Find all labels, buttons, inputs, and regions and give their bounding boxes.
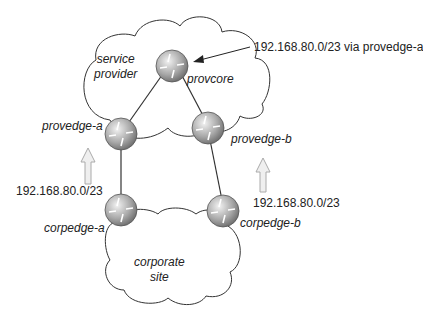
up-arrow-left	[81, 148, 95, 184]
router-icon-corpedge-b[interactable]	[207, 195, 239, 227]
router-label-provcore: provcore	[187, 72, 234, 86]
router-icon-provedge-a[interactable]	[105, 118, 137, 150]
router-icon-corpedge-a[interactable]	[105, 194, 137, 226]
router-label-provedge-a: provedge-a	[42, 119, 103, 133]
route-advert-right: 192.168.80.0/23	[253, 196, 340, 210]
router-label-provedge-b: provedge-b	[231, 132, 292, 146]
router-icon-provedge-b[interactable]	[192, 112, 224, 144]
service-provider-label-line1: service	[94, 52, 137, 67]
corporate-site-label-line1: corporate	[134, 255, 185, 270]
route-advert-left: 192.168.80.0/23	[16, 184, 103, 198]
router-label-corpedge-b: corpedge-b	[240, 216, 301, 230]
up-arrow-right	[256, 158, 270, 192]
router-label-corpedge-a: corpedge-a	[44, 221, 105, 235]
link-provedge-b-corpedge-b	[210, 140, 222, 200]
corporate-site-label: corporate site	[134, 255, 185, 285]
service-provider-label-line2: provider	[94, 67, 137, 82]
service-provider-label: service provider	[94, 52, 137, 82]
route-via-annotation: 192.168.80.0/23 via provedge-a	[254, 40, 423, 54]
router-icon-provcore[interactable]	[156, 50, 188, 82]
corporate-site-label-line2: site	[134, 270, 185, 285]
